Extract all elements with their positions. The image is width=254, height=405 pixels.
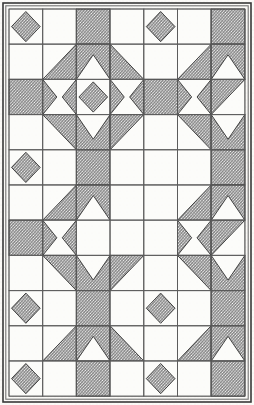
quilt-cell [211, 185, 245, 220]
quilt-cell [211, 150, 245, 185]
quilt-cell [76, 255, 110, 290]
quilt-cell [144, 220, 178, 255]
quilt-cell [178, 220, 212, 255]
quilt-cell [9, 361, 43, 396]
quilt-cell [43, 44, 77, 79]
quilt-cell [178, 9, 212, 44]
quilt-cell [9, 115, 43, 150]
quilt-cell [144, 150, 178, 185]
quilt-cell [9, 220, 43, 255]
quilt-cell [76, 150, 110, 185]
quilt-cell [178, 361, 212, 396]
quilt-cell [110, 361, 144, 396]
quilt-cell [110, 220, 144, 255]
quilt-cell [43, 291, 77, 326]
quilt-cell [9, 291, 43, 326]
quilt-cell [110, 9, 144, 44]
quilt-cell-grid [9, 9, 245, 396]
quilt-cell [110, 326, 144, 361]
quilt-cell [110, 79, 144, 114]
quilt-cell [211, 220, 245, 255]
quilt-cell [43, 185, 77, 220]
quilt-cell [43, 9, 77, 44]
quilt-cell [9, 150, 43, 185]
quilt-cell [110, 150, 144, 185]
quilt-cell [9, 79, 43, 114]
quilt-cell [144, 115, 178, 150]
quilt-cell [43, 361, 77, 396]
quilt-cell [43, 115, 77, 150]
quilt-cell [178, 326, 212, 361]
quilt-cell [178, 115, 212, 150]
quilt-cell [9, 44, 43, 79]
quilt-cell [211, 361, 245, 396]
quilt-cell [211, 115, 245, 150]
quilt-cell [211, 9, 245, 44]
quilt-cell [110, 255, 144, 290]
quilt-cell [76, 185, 110, 220]
quilt-cell [43, 220, 77, 255]
quilt-cell [144, 361, 178, 396]
quilt-cell [144, 9, 178, 44]
quilt-cell [211, 44, 245, 79]
quilt-cell [43, 255, 77, 290]
quilt-cell [9, 185, 43, 220]
quilt-cell [76, 115, 110, 150]
quilt-cell [144, 255, 178, 290]
quilt-cell [76, 220, 110, 255]
quilt-cell [76, 291, 110, 326]
quilt-cell [76, 44, 110, 79]
quilt-cell [9, 9, 43, 44]
quilt-cell [43, 150, 77, 185]
quilt-cell [178, 44, 212, 79]
quilt-pattern-svg [0, 0, 254, 405]
quilt-cell [76, 361, 110, 396]
quilt-cell [110, 291, 144, 326]
quilt-cell [211, 326, 245, 361]
quilt-cell [178, 255, 212, 290]
quilt-pattern-artboard [0, 0, 254, 405]
quilt-cell [144, 79, 178, 114]
quilt-cell [76, 326, 110, 361]
quilt-cell [110, 185, 144, 220]
quilt-cell [211, 79, 245, 114]
quilt-cell [43, 79, 77, 114]
quilt-cell [110, 115, 144, 150]
quilt-cell [9, 255, 43, 290]
quilt-cell [76, 79, 110, 114]
quilt-cell [9, 326, 43, 361]
quilt-cell [144, 44, 178, 79]
quilt-cell [144, 291, 178, 326]
quilt-cell [211, 255, 245, 290]
quilt-cell [178, 150, 212, 185]
quilt-cell [144, 185, 178, 220]
quilt-cell [43, 326, 77, 361]
quilt-cell [178, 291, 212, 326]
quilt-cell [110, 44, 144, 79]
quilt-cell [211, 291, 245, 326]
quilt-cell [178, 185, 212, 220]
quilt-cell [144, 326, 178, 361]
quilt-cell [178, 79, 212, 114]
quilt-cell [76, 9, 110, 44]
